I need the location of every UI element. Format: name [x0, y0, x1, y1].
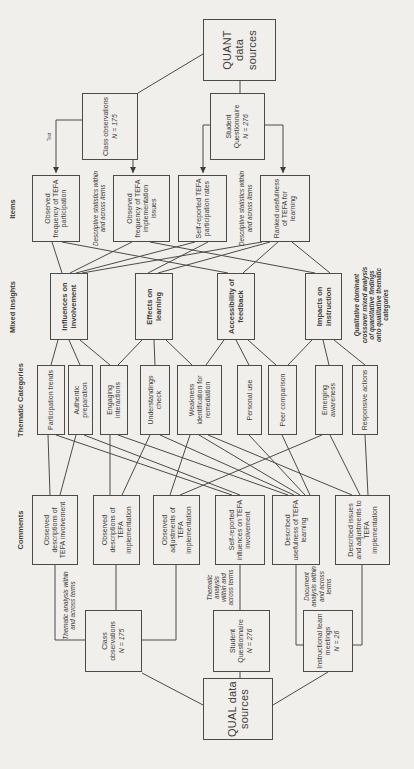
thematic-categories-header: Thematic Categories — [16, 363, 25, 437]
descriptive-statistics-annotation-2: Descriptive statistics within and across… — [236, 170, 255, 247]
insight-influences-on-involvement: Influences on involvement — [50, 273, 88, 340]
category-understandings-check: Understandings check — [140, 365, 170, 435]
item-observed-frequency-implementation-issues: Observed frequency of TEFA implementatio… — [113, 175, 170, 242]
item-observed-frequency-participation: Observed frequency of TEFA participation — [32, 175, 80, 242]
item-ranked-usefulness: Ranked usefulness of TEFA for learning — [260, 175, 310, 242]
comment-observed-descriptions-involvement: Observed descriptions of TEFA involvemen… — [32, 495, 78, 565]
category-personal-use: Personal use — [237, 365, 262, 435]
insight-effects-on-learning: Effects on learning — [135, 273, 173, 340]
mixed-insights-header: Mixed Insights — [8, 281, 17, 333]
item-self-reported-participation-rates: Self-reported TEFA participation rates — [178, 175, 227, 242]
category-weakness-identification: Weakness identification for remediation — [177, 365, 222, 435]
category-engaging-interactions: Engaging interactions — [100, 365, 128, 435]
descriptive-statistics-annotation-1: Descriptive statistics within and across… — [90, 170, 108, 247]
crossover-analysis-annotation: Qualitative dominant crossover mixed ana… — [350, 263, 393, 347]
category-participation-trends: Participation trends — [37, 365, 65, 435]
thematic-analysis-annotation-2: Thematic analysis within and across term… — [200, 568, 240, 607]
category-peer-comparison: Peer comparison — [268, 365, 297, 435]
thematic-analysis-annotation-1: Thematic analysis within and across term… — [55, 568, 83, 643]
quant-class-observations-box: Class observations N = 175 — [82, 93, 138, 160]
insight-impacts-on-instruction: Impacts on instruction — [305, 273, 342, 340]
qual-class-observations-box: Class observations N = 175 — [85, 610, 142, 672]
category-authentic-preparation: Authentic preparation — [68, 365, 93, 435]
comment-self-reported-influences: Self-reported influences on TEFA involve… — [215, 495, 265, 565]
comment-observed-descriptions-implementation: Observed descriptions of TEFA implementa… — [93, 495, 140, 565]
comments-header: Comments — [16, 511, 25, 550]
qual-data-sources-box: QUAL data sources — [203, 678, 273, 740]
comment-described-issues-adjustments: Described issues and adjustments to TEFA… — [335, 495, 390, 565]
comment-described-usefulness: Described usefulness of TEFA learning — [272, 495, 320, 565]
quant-student-questionnaire-box: Student Questionnaire N = 276 — [210, 93, 265, 160]
tiny-text-label: Text — [48, 133, 53, 141]
qual-student-questionnaire-box: Student Questionnaire N = 276 — [213, 610, 270, 672]
category-emerging-awareness: Emerging awareness — [315, 365, 343, 435]
qual-instructional-team-meetings-box: Instructional team meetings N = 26 — [303, 610, 353, 672]
mixed-methods-diagram: Items Mixed Insights Thematic Categories… — [0, 0, 414, 769]
quant-data-sources-box: QUANT data sources — [203, 19, 276, 81]
document-analysis-annotation: Document analysis within and across term… — [302, 565, 333, 608]
insight-accessibility-of-feedback: Accessibility of feedback — [217, 273, 255, 340]
comment-observed-adjustments: Observed adjustments of TEFA implementat… — [153, 495, 200, 565]
category-responsive-actions: Responsive actions — [352, 365, 378, 435]
items-header: Items — [8, 199, 17, 219]
